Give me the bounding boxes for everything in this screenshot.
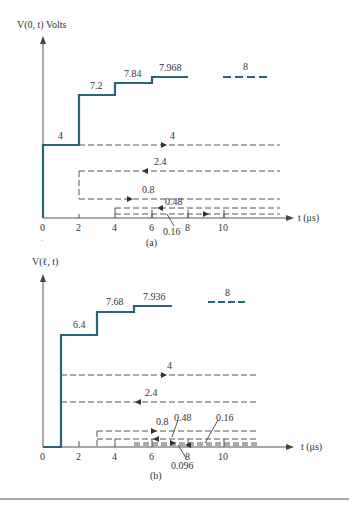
wave-label-4: 4 <box>170 130 175 141</box>
arrow-left-icon <box>142 168 148 174</box>
step-label-7-84: 7.84 <box>124 68 142 79</box>
arrow-right-icon <box>127 196 133 202</box>
wave-label-2-4: 2.4 <box>154 156 167 167</box>
dot-mark: · <box>41 238 43 244</box>
arrow-right-icon <box>151 428 157 434</box>
wave-direction-arrows-b <box>135 372 191 448</box>
step-response-b <box>43 306 172 447</box>
wave-label-2-4: 2.4 <box>145 387 158 398</box>
arrow-right-icon <box>161 372 167 378</box>
wave-label-0-096: 0.096 <box>171 460 194 471</box>
arrow-left-icon <box>157 205 163 211</box>
step-label-7-936: 7.936 <box>143 291 166 302</box>
wave-label-0-8: 0.8 <box>156 416 169 427</box>
reflected-waves-a <box>79 145 280 218</box>
reflected-waves-b <box>61 375 258 447</box>
step-label-4: 4 <box>58 130 63 141</box>
step-label-7-2: 7.2 <box>90 80 103 91</box>
x-tick-6: 6 <box>149 222 154 233</box>
wave-label-0-48: 0.48 <box>165 196 183 207</box>
x-tick-2: 2 <box>76 451 81 462</box>
wave-label-0-48: 0.48 <box>174 412 192 423</box>
x-tick-4: 4 <box>112 451 117 462</box>
x-axis-label-a: t (μs) <box>298 212 319 224</box>
arrow-up-icon <box>40 36 46 44</box>
wave-label-4: 4 <box>167 360 172 371</box>
wave-label-0-16: 0.16 <box>216 412 234 423</box>
y-axis-label-b: V(ℓ, t) <box>32 256 58 268</box>
x-tick-6: 6 <box>149 451 154 462</box>
arrow-right-icon <box>203 211 209 217</box>
x-tick-0: 0 <box>40 451 45 462</box>
asymptote-label-b: 8 <box>225 287 230 298</box>
caption-b: (b) <box>150 470 162 482</box>
asymptote-label-a: 8 <box>243 61 248 72</box>
x-tick-4: 4 <box>112 222 117 233</box>
reflection-diagram: V(0, t) Volts t (μs) 0 2 4 6 8 10 <box>0 0 349 506</box>
arrow-right-icon <box>161 142 167 148</box>
x-tick-8: 8 <box>185 222 190 233</box>
y-axis-label-a: V(0, t) Volts <box>17 19 66 31</box>
x-tick-10: 10 <box>218 451 228 462</box>
x-tick-10: 10 <box>218 222 228 233</box>
step-label-7-968: 7.968 <box>159 62 182 73</box>
figure-a: V(0, t) Volts t (μs) 0 2 4 6 8 10 <box>17 19 319 249</box>
y-axis-a: V(0, t) Volts <box>17 19 66 218</box>
x-tick-0: 0 <box>40 222 45 233</box>
step-label-7-68: 7.68 <box>106 296 124 307</box>
step-label-6-4: 6.4 <box>73 319 86 330</box>
arrow-left-icon <box>153 436 159 442</box>
figure-b: V(ℓ, t) t (μs) 0 2 4 6 8 10 <box>32 256 322 482</box>
y-axis-b: V(ℓ, t) <box>32 256 58 447</box>
arrow-right-icon <box>286 215 294 221</box>
arrow-right-icon <box>286 444 294 450</box>
wave-label-0-16: 0.16 <box>163 226 181 237</box>
caption-a: (a) <box>146 237 157 249</box>
x-tick-2: 2 <box>76 222 81 233</box>
wave-label-0-8: 0.8 <box>142 184 155 195</box>
arrow-left-icon <box>135 399 141 405</box>
arrow-up-icon <box>40 274 46 282</box>
x-axis-label-b: t (μs) <box>301 441 322 453</box>
